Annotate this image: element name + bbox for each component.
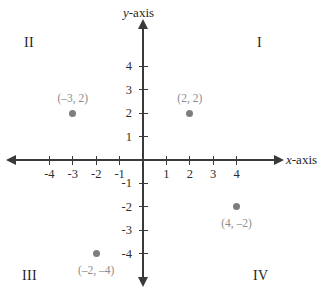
y-axis-tick xyxy=(139,230,148,231)
x-axis-tick-label: 4 xyxy=(224,168,250,181)
plotted-point-dot xyxy=(233,203,240,210)
y-axis-tick xyxy=(139,136,148,137)
x-axis-tick-label: -2 xyxy=(83,168,109,181)
x-axis-tick-label: 2 xyxy=(177,168,203,181)
x-axis-tick-label: 1 xyxy=(153,168,179,181)
quadrant-label-iii: III xyxy=(22,269,37,283)
y-axis-tick-label: -3 xyxy=(110,224,132,237)
y-axis-tick xyxy=(139,253,148,254)
y-axis-tick-label: -4 xyxy=(110,248,132,261)
x-axis-left-arrowhead-icon xyxy=(6,155,16,165)
x-axis-tick xyxy=(236,156,237,165)
x-axis-tick xyxy=(119,156,120,165)
plotted-point-dot xyxy=(69,110,76,117)
plotted-point-label: (–3, 2) xyxy=(41,93,105,105)
y-axis-tick-label: 1 xyxy=(110,131,132,144)
x-axis-tick-label: -3 xyxy=(60,168,86,181)
x-axis-tick-label: -4 xyxy=(36,168,62,181)
x-axis-tick xyxy=(96,156,97,165)
y-axis-tick xyxy=(139,183,148,184)
x-axis-tick xyxy=(189,156,190,165)
quadrant-label-ii: II xyxy=(24,36,34,50)
plotted-point-dot xyxy=(186,110,193,117)
y-axis-tick-label: -1 xyxy=(110,177,132,190)
y-axis-tick xyxy=(139,113,148,114)
quadrant-label-i: I xyxy=(257,36,262,50)
y-axis-tick-label: 3 xyxy=(110,84,132,97)
plotted-point-label: (2, 2) xyxy=(158,93,222,105)
coordinate-plane-figure: x-axis y-axis I II III IV -4-3-2-1123443… xyxy=(0,0,328,300)
y-axis-tick-label: 2 xyxy=(110,107,132,120)
quadrant-label-iv: IV xyxy=(253,269,269,283)
plotted-point-dot xyxy=(93,250,100,257)
y-axis-up-arrowhead-icon xyxy=(138,19,148,29)
x-axis-tick xyxy=(72,156,73,165)
x-axis-tick xyxy=(213,156,214,165)
x-axis-tick xyxy=(49,156,50,165)
y-axis-tick xyxy=(139,89,148,90)
plotted-point-label: (–2, –4) xyxy=(64,265,128,277)
x-axis-tick-label: 3 xyxy=(200,168,226,181)
x-axis-label: x-axis xyxy=(286,153,317,166)
y-axis-tick xyxy=(139,66,148,67)
y-axis-label: y-axis xyxy=(123,6,154,19)
y-axis-suffix: -axis xyxy=(129,5,154,20)
y-axis-tick-label: 4 xyxy=(110,60,132,73)
y-axis-tick-label: -2 xyxy=(110,201,132,214)
x-axis-suffix: -axis xyxy=(292,152,317,167)
plotted-point-label: (4, –2) xyxy=(205,218,269,230)
y-axis-down-arrowhead-icon xyxy=(138,277,148,287)
x-axis-tick xyxy=(166,156,167,165)
y-axis-tick xyxy=(139,206,148,207)
x-axis-right-arrowhead-icon xyxy=(274,155,284,165)
